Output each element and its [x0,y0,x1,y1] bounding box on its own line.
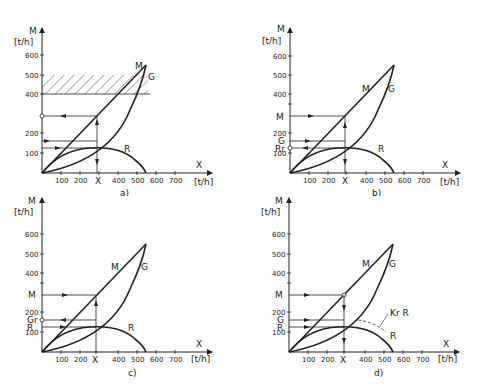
marker-m: M [275,290,283,300]
x-tick: 500 [131,356,144,364]
panel-b: 100 200 400 500 600 100 200 X 400 500 60… [242,0,484,196]
marker-r: R [277,323,283,333]
input-marker [288,146,292,150]
y-label: M [28,196,36,206]
y-tick: 500 [272,251,285,259]
y-tick: 600 [272,231,285,239]
y-label: M [277,24,285,34]
label-m: M [362,259,370,269]
y-tick: 200 [25,130,38,138]
label-g: G [148,72,155,82]
label-m: M [362,84,370,94]
x-tick: 400 [112,177,125,185]
x-tick: X [342,176,348,186]
x-tick: 100 [55,356,68,364]
input-marker [40,318,44,322]
x-tick: 500 [379,177,392,185]
marker-m: M [28,290,36,300]
label-m: M [135,61,143,71]
y-unit: [t/h] [14,37,33,47]
label-r: R [378,144,384,154]
x-tick: X [95,176,101,186]
panel-c: 100 200 400 500 600 100 200 X 400 500 60… [0,196,242,392]
x-tick: 700 [169,356,182,364]
y-tick: 600 [25,231,38,239]
diagram-a: 100 200 400 500 600 100 200 X 400 500 60… [0,0,242,196]
x-tick: 600 [150,356,163,364]
x-tick: 200 [321,356,334,364]
y-label: M [29,26,37,36]
y-tick: 600 [273,53,286,61]
diagram-d: 100 200 400 500 600 100 200 X 400 500 60… [242,196,484,392]
x-tick: X [92,355,98,365]
caption-d: d) [374,368,383,378]
x-tick: 100 [303,177,316,185]
diagram-c: 100 200 400 500 600 100 200 X 400 500 60… [0,196,242,392]
x-tick: X [340,355,346,365]
x-label: X [196,160,202,170]
input-marker [40,114,44,118]
diagram-b: 100 200 400 500 600 100 200 X 400 500 60… [242,0,484,196]
x-label: X [196,339,202,349]
y-unit: [t/h] [262,36,281,46]
y-unit: [t/h] [261,207,280,217]
y-tick: 400 [25,91,38,99]
x-tick: 500 [378,356,391,364]
x-label: X [443,339,449,349]
label-g: G [389,259,396,269]
x-tick: 500 [131,177,144,185]
x-tick: 600 [150,177,163,185]
x-tick: 400 [359,356,372,364]
panel-d: 100 200 400 500 600 100 200 X 400 500 60… [242,196,484,392]
x-unit: [t/h] [194,177,213,187]
x-label: X [442,160,448,170]
x-tick: 100 [302,356,315,364]
y-tick: 500 [273,72,286,80]
x-unit: [t/h] [440,177,459,187]
x-tick: 400 [112,356,125,364]
curve-kr-r [358,320,386,332]
y-label: M [275,196,283,206]
label-r: R [390,331,396,341]
y-unit: [t/h] [14,207,33,217]
label-kr-r: Kr R [390,308,409,318]
y-tick: 100 [25,150,38,158]
x-tick: 400 [360,177,373,185]
x-tick: 200 [322,177,335,185]
x-tick: 200 [74,356,87,364]
x-unit: [t/h] [191,354,210,364]
y-tick: 600 [25,52,38,60]
label-g: G [388,84,395,94]
marker-m: M [276,112,284,122]
label-g: G [141,262,148,272]
y-tick: 400 [273,91,286,99]
label-r: R [124,144,130,154]
marker-rr: Rr [275,144,285,154]
x-tick: 700 [416,356,429,364]
caption-a: a) [120,188,129,196]
x-tick: 100 [55,177,68,185]
y-tick: 500 [25,251,38,259]
caption-b: b) [372,188,381,196]
y-tick: 400 [272,270,285,278]
hatched-band [42,75,148,94]
x-tick: 200 [74,177,87,185]
y-tick: 500 [25,72,38,80]
caption-c: c) [128,368,136,378]
label-r: R [128,323,134,333]
x-tick: 700 [417,177,430,185]
label-m: M [111,262,119,272]
y-tick: 400 [25,270,38,278]
x-tick: 600 [397,356,410,364]
x-tick: 700 [169,177,182,185]
x-tick: 600 [398,177,411,185]
x-unit: [t/h] [438,354,457,364]
panel-a: 100 200 400 500 600 100 200 X 400 500 60… [0,0,242,196]
marker-r: R [27,323,33,333]
